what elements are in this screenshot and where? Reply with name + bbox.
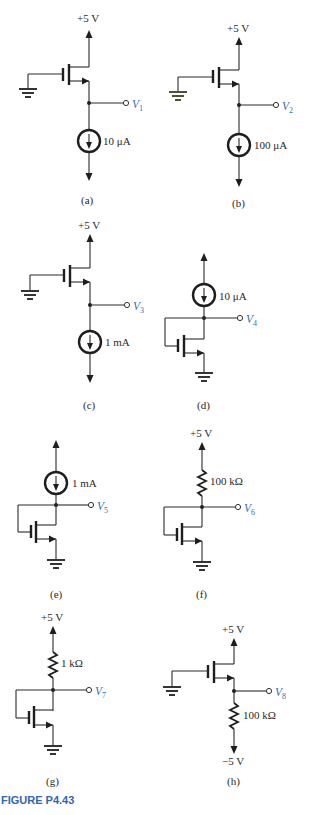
current-value: 100 μA xyxy=(254,139,287,151)
supply-arrow-icon xyxy=(231,638,238,646)
circuit-c: +5 V V3 1 mA (c) xyxy=(21,219,144,412)
resistor-value: 100 kΩ xyxy=(210,475,243,487)
current-value: 10 μA xyxy=(103,135,131,147)
supply-label: +5 V xyxy=(222,623,244,635)
output-terminal xyxy=(235,504,240,509)
output-label: V6 xyxy=(244,502,255,517)
sink-arrow-icon xyxy=(236,179,243,187)
caption: (b) xyxy=(232,197,245,210)
output-terminal xyxy=(237,315,242,320)
output-label: V5 xyxy=(97,500,108,515)
output-terminal xyxy=(86,687,91,692)
figure-p4-43: +5 V V1 10 μA (a) +5 V xyxy=(0,0,309,815)
caption: (g) xyxy=(46,775,59,788)
circuit-a: +5 V V1 10 μA (a) xyxy=(19,12,143,207)
output-terminal xyxy=(266,688,271,693)
supply-arrow-icon xyxy=(199,442,206,450)
ground-icon xyxy=(193,562,211,570)
ground-icon xyxy=(169,92,187,100)
current-value: 10 μA xyxy=(219,290,247,302)
supply-label: +5 V xyxy=(77,12,99,24)
circuit-g: +5 V 1 kΩ V7 (g) xyxy=(16,611,106,788)
current-value: 1 mA xyxy=(72,477,97,489)
supply-arrow-icon xyxy=(87,234,94,242)
caption: (f) xyxy=(196,588,207,601)
resistor-icon xyxy=(198,470,206,496)
supply-arrow-icon xyxy=(201,253,208,261)
supply-label: +5 V xyxy=(78,219,100,231)
caption: (e) xyxy=(50,588,63,601)
output-terminal xyxy=(124,302,129,307)
output-label: V8 xyxy=(275,686,286,701)
ground-icon xyxy=(19,89,37,97)
ground-icon xyxy=(195,373,213,381)
circuit-e: 1 mA V5 (e) xyxy=(18,440,108,601)
caption: (h) xyxy=(227,775,240,788)
circuit-b: +5 V V2 100 μA (b) xyxy=(169,22,293,210)
supply-label: +5 V xyxy=(41,611,63,623)
sink-arrow-icon xyxy=(87,375,94,383)
circuit-d: 10 μA V4 (d) xyxy=(165,253,257,412)
output-terminal xyxy=(273,102,278,107)
output-label: V1 xyxy=(132,98,143,113)
supply-label: +5 V xyxy=(227,22,249,34)
ground-icon xyxy=(21,291,39,299)
circuit-h: +5 V V8 100 kΩ −5 V (h) xyxy=(163,623,286,788)
supply-arrow-icon xyxy=(50,626,57,634)
resistor-value: 1 kΩ xyxy=(61,657,83,669)
output-terminal xyxy=(88,502,93,507)
resistor-icon xyxy=(230,703,238,729)
ground-icon xyxy=(44,746,62,754)
output-label: V2 xyxy=(282,100,293,115)
ground-icon xyxy=(47,560,65,568)
current-value: 1 mA xyxy=(105,336,130,348)
caption: (a) xyxy=(81,194,94,207)
ground-icon xyxy=(163,687,181,695)
circuit-f: +5 V 100 kΩ V6 (f) xyxy=(164,427,255,601)
supply-arrow-icon xyxy=(53,440,60,448)
resistor-value: 100 kΩ xyxy=(243,709,276,721)
negative-supply-arrow-icon xyxy=(231,746,238,754)
sink-arrow-icon xyxy=(86,173,93,181)
supply-label: +5 V xyxy=(190,427,212,439)
output-label: V7 xyxy=(95,685,106,700)
output-label: V3 xyxy=(133,300,144,315)
resistor-icon xyxy=(49,652,57,678)
supply-arrow-icon xyxy=(86,30,93,38)
caption: (d) xyxy=(197,399,210,412)
output-label: V4 xyxy=(246,313,257,328)
output-terminal xyxy=(123,100,128,105)
negative-supply-label: −5 V xyxy=(222,755,244,767)
supply-arrow-icon xyxy=(236,37,243,45)
caption: (c) xyxy=(83,399,96,412)
figure-title: FIGURE P4.43 xyxy=(1,794,74,806)
